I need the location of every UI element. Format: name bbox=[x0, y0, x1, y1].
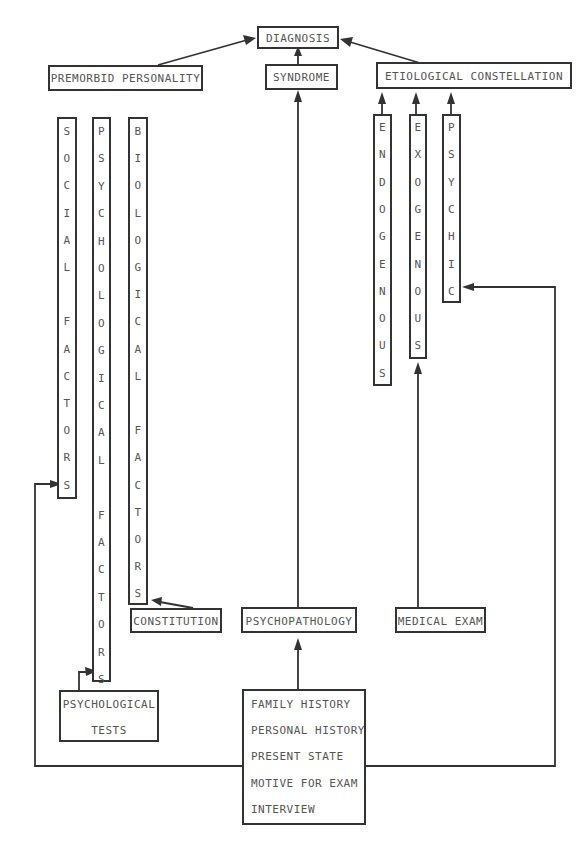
arrowhead-icon bbox=[294, 638, 302, 650]
vertical-label-letter: U bbox=[414, 312, 421, 325]
vertical-label-letter: C bbox=[98, 563, 105, 576]
vertical-label-letter: S bbox=[134, 587, 141, 600]
interview-item: MOTIVE FOR EXAM bbox=[251, 777, 358, 790]
vertical-label-letter: S bbox=[379, 367, 386, 380]
exogenous-label: EXOGENOUS bbox=[414, 121, 421, 352]
psychological-factors-label: PSYCHOLOGICALFACTORS bbox=[98, 125, 105, 686]
premorbid-personality-label: PREMORBID PERSONALITY bbox=[51, 72, 201, 85]
diagnosis-flow-diagram: DIAGNOSIS PREMORBID PERSONALITY SYNDROME… bbox=[0, 0, 587, 851]
arrowhead-icon bbox=[378, 92, 386, 104]
vertical-label-letter: U bbox=[379, 339, 386, 352]
vertical-label-letter: S bbox=[448, 148, 455, 161]
vertical-label-letter: E bbox=[414, 230, 421, 243]
diagnosis-label: DIAGNOSIS bbox=[266, 32, 330, 45]
node-psychological-tests: PSYCHOLOGICAL TESTS bbox=[60, 691, 158, 741]
vertical-label-letter: C bbox=[63, 370, 70, 383]
edge-etiological-to-diagnosis bbox=[350, 42, 420, 63]
vertical-label-letter: E bbox=[379, 121, 386, 134]
vertical-label-letter: Y bbox=[98, 180, 105, 193]
vertical-label-letter: O bbox=[414, 285, 421, 298]
vertical-label-letter: E bbox=[379, 258, 386, 271]
vertical-label-letter: S bbox=[63, 125, 70, 138]
arrowhead-icon bbox=[340, 37, 353, 47]
vertical-label-letter: P bbox=[98, 125, 105, 138]
vertical-label-letter: L bbox=[98, 454, 105, 467]
arrowhead-icon bbox=[243, 35, 256, 45]
vertical-label-letter: D bbox=[379, 176, 386, 189]
vertical-label-letter: O bbox=[379, 312, 386, 325]
vertical-label-letter: N bbox=[379, 148, 386, 161]
node-psychopathology: PSYCHOPATHOLOGY bbox=[242, 608, 356, 632]
vertical-label-letter: I bbox=[448, 258, 455, 271]
vertical-label-letter: T bbox=[63, 397, 70, 410]
vertical-label-letter: X bbox=[414, 148, 421, 161]
edge-premorbid-to-diagnosis bbox=[158, 40, 247, 65]
vertical-label-letter: O bbox=[134, 234, 141, 247]
interview-item: PERSONAL HISTORY bbox=[251, 724, 365, 737]
edge-interview-to-psychic bbox=[365, 287, 555, 766]
node-exogenous: EXOGENOUS bbox=[410, 115, 426, 358]
node-social-factors: SOCIALFACTORS bbox=[58, 118, 76, 498]
node-syndrome: SYNDROME bbox=[266, 65, 337, 89]
interview-item: PRESENT STATE bbox=[251, 750, 344, 763]
vertical-label-letter: C bbox=[134, 479, 141, 492]
vertical-label-letter: R bbox=[98, 646, 105, 659]
vertical-label-letter: G bbox=[98, 344, 105, 357]
vertical-label-letter: L bbox=[134, 370, 141, 383]
vertical-label-letter: G bbox=[134, 261, 141, 274]
psychopathology-label: PSYCHOPATHOLOGY bbox=[246, 615, 353, 628]
vertical-label-letter: I bbox=[98, 372, 105, 385]
arrowhead-icon bbox=[447, 92, 455, 104]
vertical-label-letter: S bbox=[98, 673, 105, 686]
node-medical-exam: MEDICAL EXAM bbox=[396, 608, 485, 632]
vertical-label-letter: O bbox=[63, 424, 70, 437]
vertical-label-letter: C bbox=[98, 399, 105, 412]
vertical-label-letter: F bbox=[98, 509, 105, 522]
vertical-label-letter: A bbox=[98, 536, 105, 549]
arrowhead-icon bbox=[414, 362, 422, 374]
vertical-label-letter: O bbox=[379, 203, 386, 216]
edge-tests-to-psychological-factors bbox=[79, 672, 87, 690]
vertical-label-letter: N bbox=[379, 285, 386, 298]
vertical-label-letter: E bbox=[414, 121, 421, 134]
vertical-label-letter: F bbox=[63, 315, 70, 328]
node-diagnosis: DIAGNOSIS bbox=[258, 27, 338, 48]
node-endogenous: ENDOGENOUS bbox=[374, 115, 391, 385]
vertical-label-letter: O bbox=[134, 533, 141, 546]
vertical-label-letter: Y bbox=[448, 176, 455, 189]
vertical-label-letter: R bbox=[63, 451, 70, 464]
arrowhead-icon bbox=[412, 92, 420, 104]
node-biological-factors: BIOLOGICALFACTORS bbox=[129, 118, 147, 604]
node-interview: FAMILY HISTORY PERSONAL HISTORY PRESENT … bbox=[243, 690, 365, 824]
node-constitution: CONSTITUTION bbox=[131, 609, 221, 632]
syndrome-label: SYNDROME bbox=[273, 71, 330, 84]
vertical-label-letter: S bbox=[414, 339, 421, 352]
vertical-label-letter: P bbox=[448, 121, 455, 134]
vertical-label-letter: I bbox=[134, 288, 141, 301]
node-premorbid-personality: PREMORBID PERSONALITY bbox=[49, 66, 202, 90]
vertical-label-letter: C bbox=[134, 315, 141, 328]
connectors bbox=[35, 35, 555, 766]
constitution-label: CONSTITUTION bbox=[133, 615, 218, 628]
medical-exam-label: MEDICAL EXAM bbox=[398, 615, 483, 628]
vertical-label-letter: A bbox=[63, 343, 70, 356]
vertical-label-letter: S bbox=[98, 152, 105, 165]
vertical-label-letter: L bbox=[98, 289, 105, 302]
vertical-label-letter: C bbox=[448, 285, 455, 298]
vertical-label-letter: I bbox=[63, 207, 70, 220]
vertical-label-letter: A bbox=[98, 426, 105, 439]
psychological-tests-label-line2: TESTS bbox=[91, 724, 127, 737]
psychological-tests-label-line1: PSYCHOLOGICAL bbox=[63, 698, 156, 711]
vertical-label-letter: A bbox=[134, 451, 141, 464]
vertical-label-letter: H bbox=[98, 235, 105, 248]
interview-item: INTERVIEW bbox=[251, 803, 315, 816]
vertical-label-letter: A bbox=[134, 343, 141, 356]
vertical-label-letter: L bbox=[63, 261, 70, 274]
arrowhead-icon bbox=[462, 283, 474, 291]
node-psychological-factors: PSYCHOLOGICALFACTORS bbox=[93, 118, 110, 686]
vertical-label-letter: O bbox=[134, 179, 141, 192]
vertical-label-letter: C bbox=[448, 203, 455, 216]
edge-constitution-to-biological bbox=[160, 602, 193, 608]
vertical-label-letter: H bbox=[448, 230, 455, 243]
node-psychic: PSYCHIC bbox=[443, 115, 460, 302]
